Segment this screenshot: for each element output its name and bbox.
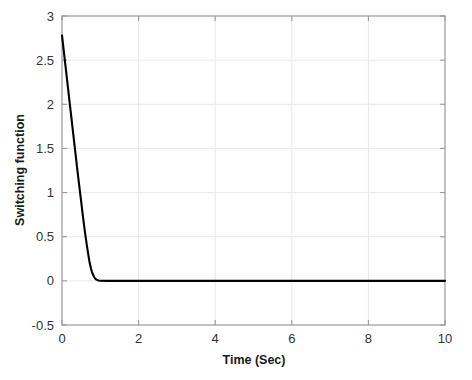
x-tick-label: 6	[288, 331, 295, 346]
x-tick-label: 4	[212, 331, 219, 346]
y-tick-label: 2	[47, 97, 54, 112]
y-tick-label: 0	[47, 273, 54, 288]
y-tick-label: 1	[47, 185, 54, 200]
y-tick-label: -0.5	[32, 318, 54, 333]
x-tick-label: 0	[58, 331, 65, 346]
x-axis-title: Time (Sec)	[223, 353, 286, 367]
y-tick-label: 3	[47, 9, 54, 24]
chart-background	[0, 0, 472, 380]
y-axis-title: Switching function	[13, 114, 27, 226]
x-tick-label: 8	[365, 331, 372, 346]
x-tick-label: 10	[438, 331, 452, 346]
figure-container: 0246810 -0.500.511.522.53 Time (Sec) Swi…	[0, 0, 472, 380]
switching-function-chart: 0246810 -0.500.511.522.53 Time (Sec) Swi…	[0, 0, 472, 380]
y-tick-label: 1.5	[36, 141, 54, 156]
y-tick-label: 2.5	[36, 53, 54, 68]
x-tick-label: 2	[135, 331, 142, 346]
y-tick-label: 0.5	[36, 229, 54, 244]
